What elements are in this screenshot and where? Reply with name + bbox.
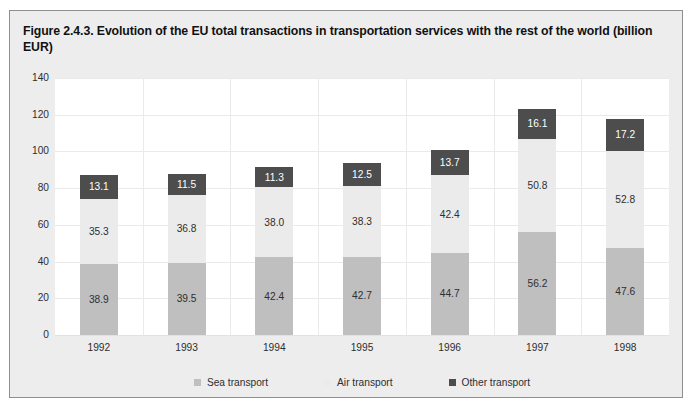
x-axis-tick-label: 1996 xyxy=(406,342,494,353)
bar-segment-other[interactable]: 12.5 xyxy=(343,163,381,186)
bar-stack[interactable]: 56.250.816.1 xyxy=(518,78,556,335)
bar-value-label: 38.0 xyxy=(264,217,284,228)
bar-value-label: 50.8 xyxy=(528,180,548,191)
y-axis-tick-label: 120 xyxy=(13,110,49,120)
bar-value-label: 42.4 xyxy=(264,291,284,302)
legend-swatch-icon xyxy=(194,379,201,386)
bar-stack[interactable]: 38.935.313.1 xyxy=(80,78,118,335)
bar-value-label: 44.7 xyxy=(440,288,460,299)
bar-value-label: 47.6 xyxy=(615,286,635,297)
legend-swatch-icon xyxy=(324,379,331,386)
y-axis-tick-label: 60 xyxy=(13,220,49,230)
bar-stack[interactable]: 42.438.011.3 xyxy=(255,78,293,335)
x-axis-tick-label: 1992 xyxy=(55,342,143,353)
bar-segment-other[interactable]: 13.7 xyxy=(431,150,469,175)
bar-value-label: 16.1 xyxy=(528,118,548,129)
x-axis-tick-label: 1998 xyxy=(581,342,669,353)
y-axis-tick-label: 100 xyxy=(13,146,49,156)
bar-stack[interactable]: 39.536.811.5 xyxy=(168,78,206,335)
gridline-vertical xyxy=(581,78,582,335)
bar-segment-air[interactable]: 38.3 xyxy=(343,186,381,256)
bar-value-label: 39.5 xyxy=(177,293,197,304)
bar-value-label: 38.9 xyxy=(89,294,109,305)
bar-value-label: 17.2 xyxy=(615,129,635,140)
bar-segment-sea[interactable]: 56.2 xyxy=(518,232,556,335)
bar-segment-air[interactable]: 35.3 xyxy=(80,199,118,264)
bar-stack[interactable]: 42.738.312.5 xyxy=(343,78,381,335)
bar-segment-other[interactable]: 17.2 xyxy=(606,119,644,151)
bar-value-label: 35.3 xyxy=(89,226,109,237)
bar-value-label: 52.8 xyxy=(615,194,635,205)
legend-item-sea[interactable]: Sea transport xyxy=(194,377,268,388)
x-axis-tick-label: 1993 xyxy=(143,342,231,353)
bar-stack[interactable]: 47.652.817.2 xyxy=(606,78,644,335)
gridline-vertical xyxy=(230,78,231,335)
bar-value-label: 36.8 xyxy=(177,223,197,234)
x-axis-baseline xyxy=(55,335,669,336)
bar-segment-other[interactable]: 16.1 xyxy=(518,109,556,139)
figure-panel: Figure 2.4.3. Evolution of the EU total … xyxy=(9,10,683,398)
bar-value-label: 38.3 xyxy=(352,216,372,227)
bar-value-label: 56.2 xyxy=(528,278,548,289)
x-axis-tick-label: 1997 xyxy=(493,342,581,353)
legend-item-other[interactable]: Other transport xyxy=(449,377,531,388)
bar-segment-sea[interactable]: 44.7 xyxy=(431,253,469,335)
bar-value-label: 42.4 xyxy=(440,209,460,220)
bar-segment-air[interactable]: 52.8 xyxy=(606,151,644,248)
bar-segment-other[interactable]: 11.5 xyxy=(168,174,206,195)
bar-segment-sea[interactable]: 47.6 xyxy=(606,248,644,335)
y-axis-tick-label: 40 xyxy=(13,257,49,267)
chart-legend: Sea transportAir transportOther transpor… xyxy=(55,377,669,388)
legend-item-air[interactable]: Air transport xyxy=(324,377,392,388)
legend-label: Air transport xyxy=(337,377,392,388)
bar-value-label: 12.5 xyxy=(352,169,372,180)
bar-segment-sea[interactable]: 39.5 xyxy=(168,263,206,336)
bar-value-label: 42.7 xyxy=(352,290,372,301)
bar-value-label: 13.1 xyxy=(89,181,109,192)
bar-segment-air[interactable]: 50.8 xyxy=(518,139,556,232)
bar-value-label: 11.3 xyxy=(265,172,284,183)
gridline-vertical xyxy=(318,78,319,335)
y-axis-tick-label: 0 xyxy=(13,330,49,340)
bar-segment-other[interactable]: 13.1 xyxy=(80,175,118,199)
bar-value-label: 11.5 xyxy=(177,179,196,190)
bar-stack[interactable]: 44.742.413.7 xyxy=(431,78,469,335)
bar-segment-other[interactable]: 11.3 xyxy=(255,167,293,188)
gridline-vertical xyxy=(143,78,144,335)
x-axis-tick-label: 1995 xyxy=(318,342,406,353)
legend-swatch-icon xyxy=(449,379,456,386)
x-axis-tick-label: 1994 xyxy=(230,342,318,353)
bar-value-label: 13.7 xyxy=(440,157,460,168)
bar-segment-air[interactable]: 38.0 xyxy=(255,187,293,257)
gridline-vertical xyxy=(494,78,495,335)
bar-segment-sea[interactable]: 38.9 xyxy=(80,264,118,335)
legend-label: Sea transport xyxy=(207,377,268,388)
figure-title: Figure 2.4.3. Evolution of the EU total … xyxy=(23,23,668,55)
bar-segment-air[interactable]: 42.4 xyxy=(431,175,469,253)
bar-segment-sea[interactable]: 42.7 xyxy=(343,257,381,335)
legend-label: Other transport xyxy=(462,377,531,388)
y-axis-tick-label: 80 xyxy=(13,183,49,193)
bar-segment-air[interactable]: 36.8 xyxy=(168,195,206,263)
bar-segment-sea[interactable]: 42.4 xyxy=(255,257,293,335)
gridline-vertical xyxy=(406,78,407,335)
y-axis-tick-label: 140 xyxy=(13,73,49,83)
y-axis-tick-label: 20 xyxy=(13,293,49,303)
